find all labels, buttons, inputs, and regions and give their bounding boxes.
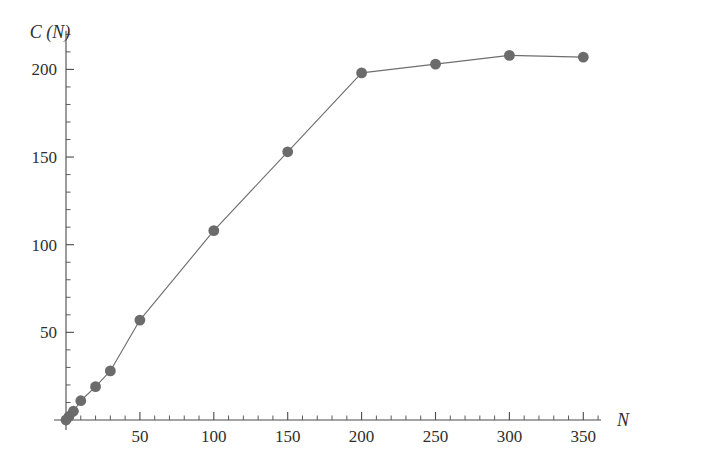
tick-marks-group bbox=[66, 34, 598, 420]
chart-canvas: 5010015020025030035050100150200 C (N)N bbox=[0, 0, 709, 472]
y-tick-label: 200 bbox=[32, 60, 58, 79]
x-axis-title: N bbox=[616, 410, 630, 430]
x-tick-label: 300 bbox=[497, 427, 523, 446]
data-point-marker bbox=[105, 366, 116, 377]
y-tick-label: 100 bbox=[32, 236, 58, 255]
chart-figure: 5010015020025030035050100150200 C (N)N bbox=[0, 0, 709, 472]
data-polyline bbox=[66, 55, 583, 420]
x-tick-label: 200 bbox=[349, 427, 375, 446]
x-tick-label: 50 bbox=[131, 427, 148, 446]
y-tick-label: 150 bbox=[32, 148, 58, 167]
data-point-marker bbox=[68, 406, 79, 417]
x-tick-label: 250 bbox=[423, 427, 449, 446]
data-point-marker bbox=[430, 59, 441, 70]
tick-labels-group: 5010015020025030035050100150200 bbox=[32, 60, 597, 446]
y-tick-label: 50 bbox=[40, 323, 57, 342]
axis-titles-group: C (N)N bbox=[30, 22, 630, 430]
data-series-group bbox=[61, 50, 589, 425]
x-tick-label: 350 bbox=[571, 427, 597, 446]
data-point-marker bbox=[356, 68, 367, 79]
x-tick-label: 150 bbox=[275, 427, 301, 446]
data-point-marker bbox=[282, 146, 293, 157]
data-point-marker bbox=[208, 225, 219, 236]
x-tick-label: 100 bbox=[201, 427, 227, 446]
axes-group bbox=[54, 31, 601, 430]
data-point-marker bbox=[90, 381, 101, 392]
data-point-marker bbox=[75, 395, 86, 406]
data-point-marker bbox=[135, 315, 146, 326]
data-point-marker bbox=[578, 52, 589, 63]
y-axis-title: C (N) bbox=[30, 22, 71, 43]
data-point-marker bbox=[504, 50, 515, 61]
